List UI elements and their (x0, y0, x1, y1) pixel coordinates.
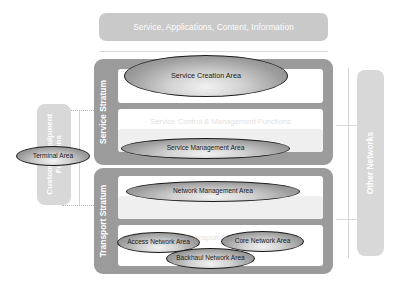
service-stratum-label: Service Stratum (94, 59, 112, 165)
service-creation-area-label: Service Creation Area (171, 72, 241, 79)
connector-dotted-lower (62, 205, 96, 206)
core-network-area-label: Core Network Area (235, 238, 291, 245)
access-network-area-label: Access Network Area (127, 239, 190, 246)
transport-stratum-label: Transport Stratum (94, 168, 112, 274)
top-banner-service-applications: Service, Applications, Content, Informat… (99, 13, 328, 41)
terminal-area-ellipse[interactable]: Terminal Area (16, 146, 90, 166)
service-control-management-functions-label: Service Control & Management Functions (118, 117, 323, 126)
backhaul-network-area-label: Backhaul Network Area (176, 255, 245, 262)
network-management-area-ellipse[interactable]: Network Management Area (126, 181, 300, 202)
separator-line-top (99, 51, 328, 52)
other-networks-label: Other Networks (357, 70, 384, 256)
transport-stratum-label-text: Transport Stratum (98, 185, 108, 258)
service-creation-area-ellipse[interactable]: Service Creation Area (124, 55, 288, 97)
top-banner-label: Service, Applications, Content, Informat… (99, 23, 328, 32)
service-management-area-ellipse[interactable]: Service Management Area (121, 138, 290, 159)
network-management-area-label: Network Management Area (173, 188, 253, 195)
backhaul-network-area-ellipse[interactable]: Backhaul Network Area (166, 248, 255, 269)
terminal-area-label: Terminal Area (33, 153, 73, 160)
service-stratum-label-text: Service Stratum (98, 80, 108, 144)
other-networks-label-text: Other Networks (366, 132, 376, 194)
diagram-canvas: Service, Applications, Content, Informat… (0, 0, 403, 281)
other-networks-panel: Other Networks (357, 70, 384, 256)
service-management-area-label: Service Management Area (167, 145, 245, 152)
separator-line-vertical-right (348, 68, 349, 258)
